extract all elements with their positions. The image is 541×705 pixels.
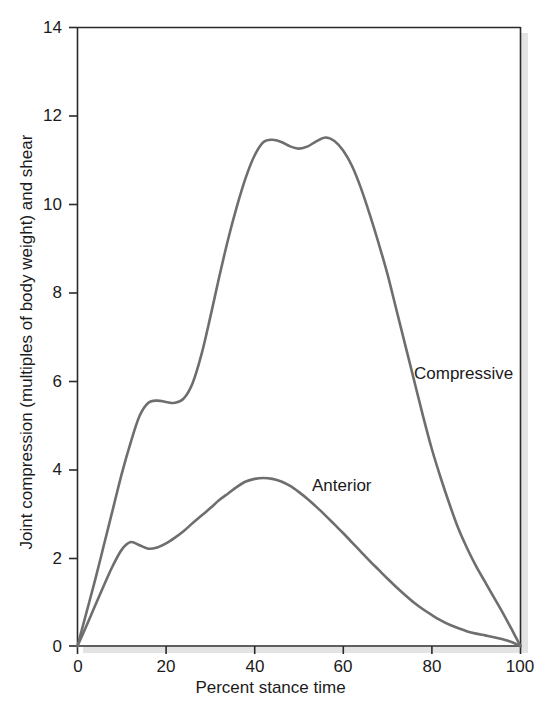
series-line-compressive	[78, 138, 521, 646]
series-label-anterior: Anterior	[312, 477, 372, 494]
x-tick-label-40: 40	[234, 658, 276, 675]
series-line-anterior	[78, 478, 521, 646]
y-tick-label-10: 10	[30, 196, 62, 213]
x-tick-label-100: 100	[499, 658, 541, 675]
y-tick-label-8: 8	[30, 284, 62, 301]
x-axis-title: Percent stance time	[0, 679, 541, 696]
axis-frame	[78, 27, 521, 647]
x-tick-label-20: 20	[145, 658, 187, 675]
plot-canvas	[0, 0, 541, 705]
x-tick-label-60: 60	[322, 658, 364, 675]
series-label-compressive: Compressive	[414, 365, 513, 382]
y-tick-label-14: 14	[30, 19, 62, 36]
y-tick-label-4: 4	[30, 461, 62, 478]
y-axis-ticks	[69, 28, 78, 647]
y-tick-label-0: 0	[30, 638, 62, 655]
y-tick-label-12: 12	[30, 107, 62, 124]
plot-shadow-right	[521, 33, 528, 651]
y-tick-label-2: 2	[30, 550, 62, 567]
chart-figure: 14 12 10 8 6 4 2 0 0 20 40 60 80 100 Per…	[0, 0, 541, 705]
y-tick-label-6: 6	[30, 373, 62, 390]
x-tick-label-80: 80	[411, 658, 453, 675]
x-tick-label-0: 0	[57, 658, 99, 675]
series-layer	[78, 138, 521, 646]
plot-shadow-bottom	[83, 647, 528, 653]
